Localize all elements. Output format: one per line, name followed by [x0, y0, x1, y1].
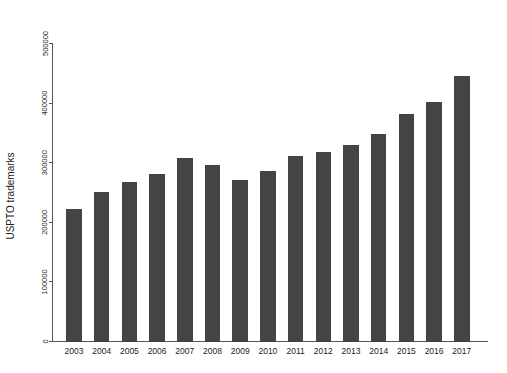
x-tick-label-2010: 2010: [258, 346, 277, 356]
chart-container: 0100000200000300000400000500000 USPTO tr…: [0, 0, 507, 373]
x-tick-label-group: 2003200420052006200720082009201020112012…: [65, 346, 472, 356]
bar-2006: [149, 174, 165, 341]
bar-2009: [232, 180, 248, 342]
bar-2011: [288, 156, 304, 341]
x-tick-label-2004: 2004: [92, 346, 111, 356]
x-tick-label-2005: 2005: [120, 346, 139, 356]
bar-2005: [122, 182, 137, 341]
x-tick-label-2003: 2003: [65, 346, 84, 356]
x-tick-label-2013: 2013: [342, 346, 361, 356]
x-tick-label-2015: 2015: [397, 346, 416, 356]
bar-2014: [371, 134, 387, 341]
x-tick-label-2006: 2006: [148, 346, 167, 356]
bar-chart-svg: 0100000200000300000400000500000 USPTO tr…: [0, 0, 507, 373]
bar-2013: [343, 145, 359, 341]
bar-2007: [177, 158, 193, 342]
y-tick-label: 200000: [41, 210, 50, 235]
x-tick-label-2016: 2016: [425, 346, 444, 356]
y-tick-label: 100000: [41, 269, 50, 294]
y-tick-label: 0: [41, 339, 50, 343]
bar-2017: [454, 76, 470, 341]
x-tick-label-2017: 2017: [452, 346, 471, 356]
y-axis-title: USPTO trademarks: [5, 152, 16, 239]
bar-2015: [399, 114, 415, 341]
bar-2008: [205, 165, 221, 341]
x-tick-label-2011: 2011: [286, 346, 305, 356]
bar-2012: [316, 152, 332, 342]
bar-2016: [426, 102, 442, 342]
bar-2010: [260, 171, 276, 341]
y-tick-label: 300000: [41, 150, 50, 175]
bar-2004: [94, 192, 110, 342]
x-tick-label-2014: 2014: [369, 346, 388, 356]
x-tick-label-2009: 2009: [231, 346, 250, 356]
x-tick-label-2012: 2012: [314, 346, 333, 356]
y-tick-label: 500000: [41, 31, 50, 56]
y-tick-label: 400000: [41, 91, 50, 116]
x-tick-label-2008: 2008: [203, 346, 222, 356]
bar-2003: [66, 209, 82, 342]
x-tick-label-2007: 2007: [175, 346, 194, 356]
